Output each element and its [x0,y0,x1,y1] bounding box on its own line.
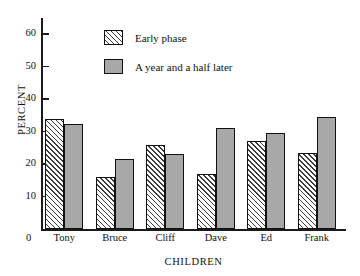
bar-ed-series-1 [247,141,266,229]
y-axis-tick [43,33,49,35]
x-axis-tick-label-frank: Frank [284,232,350,243]
legend-item-year-and-half-later: A year and a half later [104,59,232,74]
bar-chart: PERCENT 102030405060 0 TonyBruceCliffDav… [0,0,360,276]
y-axis-tick-label: 10 [6,190,36,201]
bar-cliff-series-1 [146,145,165,229]
y-axis-line [41,18,43,230]
bar-dave-series-1 [197,174,216,229]
bar-ed-series-2 [266,133,285,229]
x-axis-title: CHILDREN [41,256,346,267]
bar-tony-series-2 [64,124,83,230]
y-axis-tick-label: 50 [6,60,36,71]
y-axis-tick-label: 20 [6,157,36,168]
legend-swatch-hatched-icon [104,30,123,45]
y-axis-tick [43,98,49,100]
bar-bruce-series-1 [96,177,115,229]
bar-tony-series-1 [45,119,64,229]
legend-label-year-and-half-later: A year and a half later [135,61,232,73]
legend-label-early-phase: Early phase [135,32,187,44]
y-axis-tick-label: 60 [6,27,36,38]
y-axis-title: PERCENT [16,55,27,165]
x-axis-line [41,229,346,231]
bar-dave-series-2 [216,128,235,229]
bar-cliff-series-2 [165,154,184,229]
bar-frank-series-1 [298,153,317,229]
legend-item-early-phase: Early phase [104,30,232,45]
bar-bruce-series-2 [115,159,134,229]
y-axis-tick-label: 30 [6,125,36,136]
chart-legend: Early phase A year and a half later [104,30,232,88]
bar-frank-series-2 [317,117,336,229]
legend-swatch-solid-icon [104,59,123,74]
y-axis-tick [43,66,49,68]
y-axis-tick-label: 40 [6,92,36,103]
